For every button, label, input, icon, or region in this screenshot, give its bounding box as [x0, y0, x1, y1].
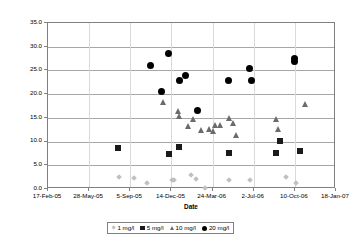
y-axis-tick-label: 5.0	[12, 161, 42, 167]
legend-item[interactable]: 5 mg/l	[140, 224, 163, 232]
legend-item[interactable]: 20 mg/l	[202, 224, 229, 232]
data-point-5-mg-l	[297, 148, 303, 154]
data-point-20-mg-l	[182, 72, 189, 79]
y-axis-tick-label: 35.0	[12, 19, 42, 25]
data-point-5-mg-l	[277, 138, 283, 144]
data-point-10-mg-l	[275, 126, 281, 132]
data-point-1-mg-l	[247, 177, 253, 183]
x-axis-tick-mark	[212, 188, 213, 191]
data-point-1-mg-l	[116, 174, 122, 180]
data-point-20-mg-l	[246, 65, 253, 72]
data-point-1-mg-l	[202, 185, 208, 191]
data-point-1-mg-l	[193, 176, 199, 182]
x-axis-tick-mark	[129, 188, 130, 191]
y-axis-tick-label: 30.0	[12, 43, 42, 49]
data-point-20-mg-l	[194, 107, 201, 114]
y-axis-title: Nitrate Concentration (mg/l NO3-N)	[0, 0, 10, 24]
x-axis-title: Date	[47, 203, 335, 210]
gridline	[48, 165, 334, 166]
data-point-10-mg-l	[233, 132, 239, 138]
legend-item-label: 5 mg/l	[147, 224, 164, 232]
data-point-10-mg-l	[230, 120, 236, 126]
x-axis-tick-mark	[294, 188, 295, 191]
gridline	[48, 142, 334, 143]
vertical-gridline	[130, 23, 131, 187]
y-axis-tick-label: 15.0	[12, 114, 42, 120]
y-axis-tick-label: 20.0	[12, 90, 42, 96]
data-point-20-mg-l	[158, 88, 165, 95]
y-axis-tick-label: 10.0	[12, 137, 42, 143]
plot-area	[47, 22, 335, 188]
data-point-5-mg-l	[115, 145, 121, 151]
legend-item[interactable]: 10 mg/l	[170, 224, 196, 232]
data-point-5-mg-l	[166, 151, 172, 157]
data-point-20-mg-l	[225, 77, 232, 84]
legend-item-label: 10 mg/l	[176, 224, 196, 232]
y-axis-tick-label: 25.0	[12, 66, 42, 72]
legend-item-label: 20 mg/l	[209, 224, 229, 232]
vertical-gridline	[171, 23, 172, 187]
data-point-10-mg-l	[198, 127, 204, 133]
data-point-1-mg-l	[293, 180, 299, 186]
data-point-5-mg-l	[176, 144, 182, 150]
data-point-20-mg-l	[248, 77, 255, 84]
gridline	[48, 94, 334, 95]
data-point-20-mg-l	[147, 62, 154, 69]
data-point-10-mg-l	[273, 116, 279, 122]
y-axis-tick-label: 0.0	[12, 185, 42, 191]
vertical-gridline	[295, 23, 296, 187]
x-axis-tick-label: 18-Jan-07	[307, 192, 354, 199]
data-point-10-mg-l	[217, 122, 223, 128]
data-point-1-mg-l	[145, 180, 151, 186]
data-point-1-mg-l	[132, 175, 138, 181]
circle-marker-icon	[202, 226, 207, 231]
data-point-10-mg-l	[176, 113, 182, 119]
legend-item[interactable]: 1 mg/l	[112, 224, 134, 232]
data-point-20-mg-l	[176, 77, 183, 84]
vertical-gridline	[89, 23, 90, 187]
data-point-10-mg-l	[190, 116, 196, 122]
vertical-gridline	[213, 23, 214, 187]
data-point-5-mg-l	[226, 150, 232, 156]
gridline	[48, 47, 334, 48]
data-point-10-mg-l	[160, 99, 166, 105]
triangle-marker-icon	[170, 226, 174, 230]
x-axis-tick-mark	[170, 188, 171, 191]
chart-legend: 1 mg/l5 mg/l10 mg/l20 mg/l	[107, 222, 234, 234]
x-axis-tick-mark	[47, 188, 48, 191]
square-marker-icon	[140, 226, 145, 231]
x-axis-tick-mark	[335, 188, 336, 191]
data-point-20-mg-l	[291, 58, 298, 65]
x-axis-tick-mark	[253, 188, 254, 191]
data-point-10-mg-l	[210, 128, 216, 134]
data-point-10-mg-l	[185, 123, 191, 129]
data-point-1-mg-l	[283, 174, 289, 180]
vertical-gridline	[254, 23, 255, 187]
data-point-10-mg-l	[302, 101, 308, 107]
data-point-1-mg-l	[226, 177, 232, 183]
data-point-5-mg-l	[273, 150, 279, 156]
legend-item-label: 1 mg/l	[117, 224, 134, 232]
gridline	[48, 70, 334, 71]
x-axis-tick-mark	[88, 188, 89, 191]
diamond-marker-icon	[111, 226, 116, 231]
